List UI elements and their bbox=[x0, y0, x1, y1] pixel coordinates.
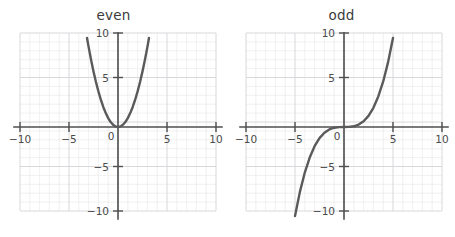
odd-ytick-neg5: −5 bbox=[320, 161, 335, 173]
odd-xtick-5: 5 bbox=[390, 133, 397, 145]
even-ytick-neg10: −10 bbox=[87, 205, 109, 217]
even-odd-function-figure: even bbox=[0, 0, 455, 237]
even-xtick-10: 10 bbox=[209, 133, 222, 145]
odd-ytick-5: 5 bbox=[328, 72, 335, 84]
even-ytick-10: 10 bbox=[96, 27, 109, 39]
odd-panel: odd bbox=[228, 0, 455, 237]
even-xtick-neg10: −10 bbox=[9, 133, 31, 145]
even-ytick-neg5: −5 bbox=[94, 161, 109, 173]
odd-x-tick-labels: −10 −5 0 5 10 bbox=[235, 130, 449, 145]
odd-ytick-10: 10 bbox=[322, 27, 335, 39]
even-xtick-5: 5 bbox=[164, 133, 171, 145]
even-x-tick-labels: −10 −5 0 5 10 bbox=[9, 130, 223, 145]
even-xtick-zero: 0 bbox=[108, 130, 115, 142]
odd-xtick-neg10: −10 bbox=[235, 133, 257, 145]
even-ytick-5: 5 bbox=[102, 72, 109, 84]
odd-xtick-zero: 0 bbox=[334, 130, 341, 142]
odd-ytick-neg10: −10 bbox=[313, 205, 335, 217]
even-plot-svg: −10 −5 0 5 10 10 5 −5 −10 bbox=[0, 0, 227, 237]
even-panel: even bbox=[0, 0, 227, 237]
odd-xtick-10: 10 bbox=[435, 133, 448, 145]
odd-plot-svg: −10 −5 0 5 10 10 5 −5 −10 bbox=[228, 0, 455, 237]
even-xtick-neg5: −5 bbox=[61, 133, 76, 145]
odd-xtick-neg5: −5 bbox=[287, 133, 302, 145]
